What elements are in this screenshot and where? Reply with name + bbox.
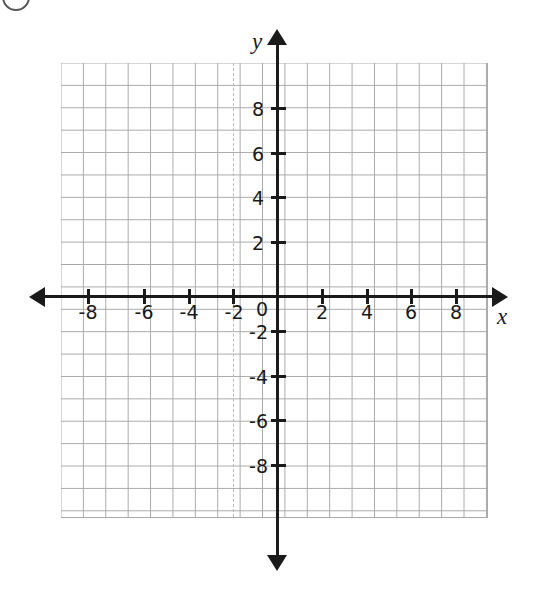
y-tick-label: 6 [252, 145, 264, 164]
x-axis-label: x [497, 305, 507, 328]
y-axis-tick [271, 196, 286, 199]
y-tick-label: -2 [249, 323, 268, 342]
x-tick-label: -6 [135, 303, 154, 322]
y-axis-arrow-down-icon [267, 555, 287, 571]
y-tick-label: -8 [249, 457, 268, 476]
x-tick-label: 4 [361, 303, 373, 322]
y-tick-label: 4 [252, 189, 264, 208]
y-axis-tick [271, 464, 286, 467]
y-tick-label: 2 [252, 234, 264, 253]
y-tick-label: -4 [249, 368, 268, 387]
x-tick-label: -8 [79, 303, 98, 322]
y-axis-tick [271, 152, 286, 155]
coordinate-plane-graph: -8 -6 -4 -2 2 4 6 8 8 6 4 2 -2 -4 -6 -8 … [0, 0, 547, 596]
origin-label: 0 [256, 300, 268, 319]
x-tick-label: -4 [180, 303, 199, 322]
y-tick-label: -6 [249, 412, 268, 431]
y-axis-label: y [252, 30, 262, 53]
graph-grid [61, 63, 488, 518]
x-tick-label: 8 [450, 303, 462, 322]
x-axis-arrow-left-icon [29, 287, 45, 307]
y-axis-line [276, 40, 279, 560]
y-axis-tick [271, 419, 286, 422]
x-axis-line [42, 295, 498, 298]
y-axis-arrow-up-icon [267, 29, 287, 45]
x-tick-label: 2 [316, 303, 328, 322]
y-tick-label: 8 [252, 100, 264, 119]
worksheet-page: -8 -6 -4 -2 2 4 6 8 8 6 4 2 -2 -4 -6 -8 … [0, 0, 547, 596]
x-tick-label: -2 [225, 303, 244, 322]
y-axis-tick [271, 330, 286, 333]
y-axis-tick [271, 241, 286, 244]
y-axis-tick [271, 107, 286, 110]
y-axis-tick [271, 375, 286, 378]
x-tick-label: 6 [405, 303, 417, 322]
